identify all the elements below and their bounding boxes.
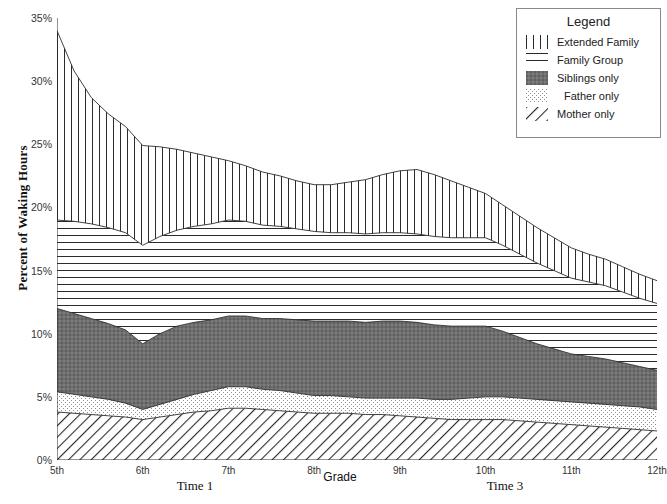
legend-title: Legend [517,14,660,29]
x-tick-12th: 12th [647,465,666,476]
legend-item-siblings-only: Siblings only [517,69,660,87]
x-tick-10th: 10th [476,465,495,476]
x-tick-9th: 9th [393,465,407,476]
legend-label: Extended Family [557,36,639,48]
legend-swatch-solid-gray-icon [526,71,548,85]
legend-swatch-diagonal-lines-icon [526,107,548,121]
legend-swatch-dots-icon [526,89,548,103]
x-annotation-time-1: Time 1 [177,478,214,494]
y-axis-ticks: 0%5%10%15%20%25%30%35% [0,0,52,504]
y-tick-15: 15% [18,265,52,277]
y-tick-0: 0% [18,454,52,466]
legend-swatch-vertical-lines-icon [526,35,548,49]
legend-rows: Extended FamilyFamily GroupSiblings only… [517,33,660,123]
legend: Legend Extended FamilyFamily GroupSiblin… [516,8,661,138]
legend-label: Family Group [557,54,623,66]
x-tick-6th: 6th [136,465,150,476]
x-tick-5th: 5th [50,465,64,476]
x-tick-8th: 8th [307,465,321,476]
y-tick-30: 30% [18,75,52,87]
y-tick-25: 25% [18,138,52,150]
legend-label: Mother only [557,108,614,120]
x-tick-11th: 11th [562,465,581,476]
y-tick-5: 5% [18,391,52,403]
legend-swatch-horizontal-lines-icon [526,53,548,67]
legend-item-mother-only: Mother only [517,105,660,123]
x-tick-7th: 7th [221,465,235,476]
legend-item-family-group: Family Group [517,51,660,69]
legend-label: Siblings only [557,72,619,84]
y-tick-35: 35% [18,12,52,24]
y-tick-20: 20% [18,201,52,213]
y-tick-10: 10% [18,328,52,340]
stacked-area-chart: Percent of Waking Hours 0%5%10%15%20%25%… [0,0,667,504]
legend-item-father-only: Father only [517,87,660,105]
x-annotation-time-3: Time 3 [487,478,524,494]
x-annotation-grade: Grade [323,470,356,484]
legend-label: Father only [557,90,619,102]
legend-item-extended-family: Extended Family [517,33,660,51]
